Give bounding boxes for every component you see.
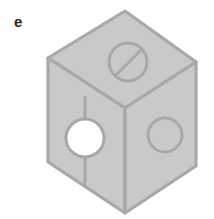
left-face-hole-fill <box>66 119 104 157</box>
figure-canvas: e <box>0 0 214 219</box>
isometric-cube-figure <box>0 0 214 219</box>
left-face-through-hole <box>66 119 104 157</box>
cube-body <box>48 11 196 213</box>
